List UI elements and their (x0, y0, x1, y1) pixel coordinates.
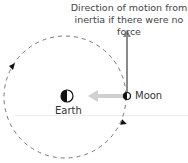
caption-line-1: Direction of motion from (70, 2, 188, 14)
moon-label: Moon (135, 90, 162, 101)
caption-line-2: inertia if there were no force (70, 14, 188, 38)
orbit-arrow-left-icon (9, 63, 15, 70)
orbit-arrow-right-icon (120, 119, 128, 127)
earth-label: Earth (55, 105, 82, 116)
inertia-caption: Direction of motion from inertia if ther… (70, 2, 188, 38)
gravity-arrowhead-icon (88, 90, 98, 102)
